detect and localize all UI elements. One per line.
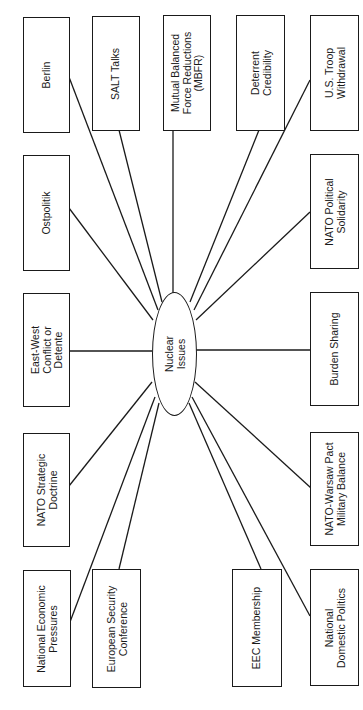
node-nato-warsaw-balance: NATO-Warsaw Pact Military Balance	[310, 432, 359, 546]
edge-nato-political	[196, 212, 310, 320]
edge-salt	[119, 130, 162, 302]
node-nato-political-solidarity: NATO Political Solidarity	[310, 154, 359, 269]
edge-nato-strategic	[69, 382, 152, 486]
node-us-troop-withdrawal: U.S. Troop Withdrawal	[310, 15, 359, 131]
node-nato-strategic-doctrine: NATO Strategic Doctrine	[23, 433, 70, 547]
node-burden-sharing: Burden Sharing	[310, 292, 359, 406]
hub-label: Nuclear Issues	[163, 336, 186, 372]
edge-deterrent	[190, 130, 259, 302]
node-salt-talks: SALT Talks	[92, 16, 140, 131]
node-european-security-conference: European Security Conference	[92, 569, 141, 688]
node-mbfr: Mutual Balanced Force Reductions (MBFR)	[163, 15, 211, 131]
node-deterrent-credibility: Deterrent Credibility	[236, 15, 285, 131]
node-berlin: Berlin	[23, 17, 70, 133]
node-national-economic-pressures: National Economic Pressures	[23, 570, 71, 687]
edge-eec	[189, 403, 261, 569]
hub-nuclear-issues: Nuclear Issues	[152, 292, 197, 416]
node-east-west-conflict: East-West Conflict or Detente	[23, 293, 70, 407]
node-national-domestic-politics: National Domestic Politics	[310, 569, 359, 686]
node-ostpolitik: Ostpolitik	[23, 155, 70, 271]
edge-european-security	[119, 403, 159, 569]
node-eec-membership: EEC Membership	[232, 569, 282, 687]
